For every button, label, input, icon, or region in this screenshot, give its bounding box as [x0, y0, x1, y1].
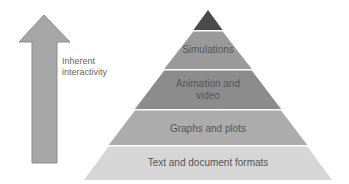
arrow-label-line1: Inherent	[62, 56, 107, 67]
layer-label-text: Text and document formats	[100, 157, 316, 169]
layer-label-graphs: Graphs and plots	[130, 123, 286, 135]
arrow-label-line2: interactivity	[62, 67, 107, 78]
arrow-label: Inherent interactivity	[62, 56, 107, 78]
layer-label-animation-line1: Animation and	[150, 78, 266, 90]
layer-label-animation-line2: video	[150, 90, 266, 102]
layer-label-animation: Animation and video	[150, 78, 266, 102]
up-arrow-icon	[19, 15, 70, 163]
layer-label-simulations: Simulations	[160, 44, 256, 56]
pyramid-layer-apex	[193, 10, 222, 30]
